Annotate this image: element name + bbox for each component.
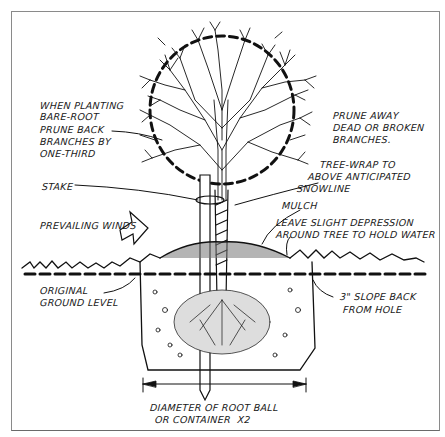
label-tree-wrap: TREE-WRAP TO — [320, 159, 397, 170]
label-stake: STAKE — [42, 181, 74, 192]
label-tree-wrap: ABOVE ANTICIPATED — [308, 171, 412, 182]
label-bare-root: BARE-ROOT — [40, 111, 100, 122]
label-bare-root: BRANCHES BY — [40, 136, 112, 147]
label-bare-root: ONE-THIRD — [40, 148, 96, 159]
label-prune-away: PRUNE AWAY — [333, 110, 400, 121]
label-tree-wrap: SNOWLINE — [297, 183, 351, 194]
grass-right — [290, 250, 424, 262]
label-bare-root: WHEN PLANTING — [40, 100, 125, 111]
label-prevailing-winds: PREVAILING WINDS — [40, 220, 137, 231]
label-slope-back: FROM HOLE — [343, 304, 403, 315]
root-ball — [174, 290, 270, 354]
stake — [196, 175, 224, 400]
label-mulch: MULCH — [282, 200, 319, 211]
label-original-ground: ORIGINAL — [40, 285, 89, 296]
mulch-mound — [160, 242, 290, 258]
label-bare-root: PRUNE BACK — [40, 124, 105, 135]
label-depression: LEAVE SLIGHT DEPRESSION — [276, 217, 415, 228]
label-original-ground: GROUND LEVEL — [40, 297, 119, 308]
label-diameter: OR CONTAINER X2 — [155, 414, 251, 425]
dimension-line — [143, 378, 306, 392]
label-slope-back: 3" SLOPE BACK — [340, 291, 417, 302]
label-prune-away: BRANCHES. — [333, 134, 392, 145]
tree-crown — [140, 22, 316, 200]
label-depression: AROUND TREE TO HOLD WATER — [276, 229, 436, 240]
grass-left — [22, 254, 160, 268]
label-diameter: DIAMETER OF ROOT BALL — [150, 402, 279, 413]
label-prune-away: DEAD OR BROKEN — [333, 122, 425, 133]
